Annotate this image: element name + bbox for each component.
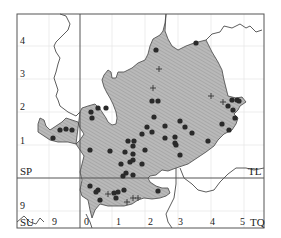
record-dot (173, 142, 178, 147)
record-dot (87, 183, 92, 188)
record-dot (139, 161, 144, 166)
record-dot (236, 98, 241, 103)
y-label-4: 4 (20, 36, 25, 46)
record-dot (229, 97, 234, 102)
record-dot (142, 147, 147, 152)
x-label-3: 3 (178, 217, 183, 227)
record-dot (113, 195, 118, 200)
record-dot (225, 103, 230, 108)
record-dot (125, 138, 130, 143)
record-dot (226, 127, 231, 132)
record-dot (50, 135, 55, 140)
y-label-1: 1 (20, 136, 25, 146)
record-dot (127, 159, 132, 164)
record-dot (155, 188, 160, 193)
record-dot (95, 105, 100, 110)
record-dot (131, 138, 136, 143)
x-label-9: 9 (52, 217, 57, 227)
record-dot (57, 127, 62, 132)
record-dot (182, 124, 187, 129)
record-dot (95, 187, 100, 192)
record-dot (144, 124, 149, 129)
grid-square-sp: SP (20, 166, 32, 177)
record-dot (115, 189, 120, 194)
record-dot (130, 151, 135, 156)
record-dot (149, 98, 154, 103)
record-dot (162, 135, 167, 140)
grid-square-tq: TQ (250, 217, 265, 228)
y-label-3: 3 (20, 69, 25, 79)
record-dot (151, 114, 156, 119)
grid-square-su: SU (20, 217, 34, 228)
x-label-4: 4 (210, 217, 215, 227)
county-area (38, 14, 246, 218)
record-dot (155, 98, 160, 103)
record-dot (149, 129, 154, 134)
record-dot (103, 105, 108, 110)
record-dot (121, 187, 126, 192)
x-label-5: 5 (240, 217, 245, 227)
record-dot (130, 172, 135, 177)
y-label-2: 2 (20, 102, 25, 112)
x-label-2: 2 (148, 217, 153, 227)
record-dot (118, 161, 123, 166)
x-label-1: 1 (116, 217, 121, 227)
record-dot (107, 148, 112, 153)
record-dot (162, 123, 167, 128)
record-dot (89, 115, 94, 120)
record-dot (189, 130, 194, 135)
grid-square-tl: TL (248, 166, 261, 177)
record-dot (177, 152, 182, 157)
record-dot (87, 147, 92, 152)
record-dot (139, 131, 144, 136)
record-dot (120, 173, 125, 178)
record-dot (69, 127, 74, 132)
distribution-map (0, 0, 281, 238)
record-dot (122, 149, 127, 154)
record-dot (232, 115, 237, 120)
record-dot (177, 118, 182, 123)
record-dot (230, 107, 235, 112)
record-dot (97, 197, 102, 202)
record-dot (153, 47, 158, 52)
record-dot (63, 126, 68, 131)
record-dot (130, 143, 135, 148)
x-label-0: 0 (84, 217, 89, 227)
record-dot (205, 138, 210, 143)
record-dot (193, 40, 198, 45)
record-dot (172, 134, 177, 139)
y-label-9: 9 (20, 201, 25, 211)
record-dot (88, 109, 93, 114)
record-dot (219, 121, 224, 126)
